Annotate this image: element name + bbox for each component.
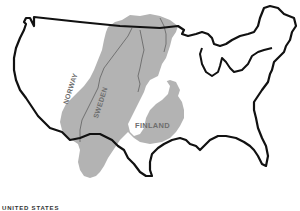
great-lakes-outline <box>200 48 272 76</box>
finland-label: FINLAND <box>135 121 170 130</box>
united-states-label: UNITED STATES <box>2 205 59 211</box>
map: NORWAY SWEDEN FINLAND UNITED STATES <box>0 0 300 211</box>
map-graphic <box>0 0 300 211</box>
